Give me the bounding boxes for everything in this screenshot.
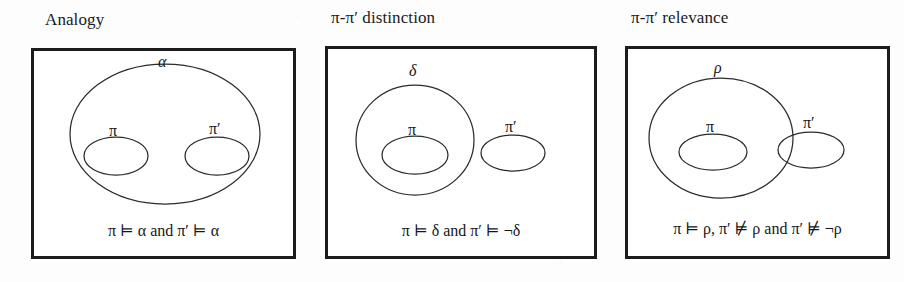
panel-title-relevance: π-π′ relevance: [631, 9, 728, 26]
set-label-pi: π: [109, 123, 117, 139]
pi-prime-ellipse: [481, 135, 545, 171]
set-label-rho: ρ: [714, 60, 722, 76]
outer-ellipse-delta: [356, 85, 474, 195]
set-label-pi: π: [706, 119, 714, 135]
outer-ellipse-rho: [649, 78, 793, 198]
outer-ellipse-alpha: [70, 64, 260, 204]
panel-box-analogy: α π π′ π ⊨ α and π′ ⊨ α: [31, 48, 296, 259]
panel-caption-distinction: π ⊨ δ and π′ ⊨ ¬δ: [328, 223, 594, 239]
set-label-alpha: α: [158, 54, 166, 70]
figure-root: Analogy α π π′ π ⊨ α and π′ ⊨ α π-π′ dis…: [0, 0, 904, 282]
panel-title-analogy: Analogy: [45, 11, 104, 28]
panel-relevance: π-π′ relevance ρ π π′ π ⊨ ρ, π′ ⊭ ρ and …: [625, 6, 890, 259]
panel-distinction: π-π′ distinction δ π π′ π ⊨ δ and π′ ⊨ ¬…: [325, 6, 597, 259]
panel-caption-relevance: π ⊨ ρ, π′ ⊭ ρ and π′ ⊭ ¬ρ: [628, 221, 887, 237]
set-label-pi-prime: π′: [209, 121, 221, 137]
panel-box-distinction: δ π π′ π ⊨ δ and π′ ⊨ ¬δ: [325, 46, 597, 259]
set-label-pi-prime: π′: [803, 115, 815, 131]
panel-title-distinction: π-π′ distinction: [331, 9, 435, 26]
panel-analogy: Analogy α π π′ π ⊨ α and π′ ⊨ α: [31, 8, 296, 259]
pi-ellipse: [84, 137, 148, 175]
pi-prime-ellipse: [185, 137, 249, 175]
set-label-delta: δ: [409, 63, 416, 79]
set-label-pi-prime: π′: [505, 119, 517, 135]
pi-ellipse: [382, 136, 448, 174]
set-label-pi: π: [408, 122, 416, 138]
pi-prime-ellipse: [778, 132, 844, 168]
pi-ellipse: [679, 134, 747, 170]
panel-caption-analogy: π ⊨ α and π′ ⊨ α: [34, 223, 293, 239]
panel-box-relevance: ρ π π′ π ⊨ ρ, π′ ⊭ ρ and π′ ⊭ ¬ρ: [625, 46, 890, 259]
